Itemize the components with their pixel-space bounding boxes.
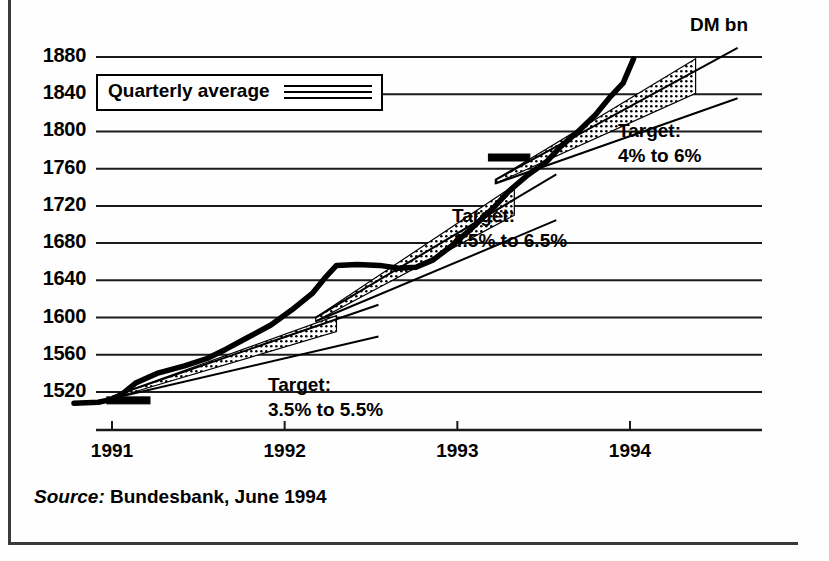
- y-tick-label: 1520: [8, 379, 86, 402]
- y-tick-label: 1680: [8, 230, 86, 253]
- source-prefix: Source:: [34, 486, 105, 507]
- y-tick-label: 1800: [8, 118, 86, 141]
- xticks-group: [112, 421, 630, 430]
- x-tick-label: 1993: [412, 440, 502, 462]
- y-tick-label: 1840: [8, 81, 86, 104]
- source-note: Source: Bundesbank, June 1994: [34, 486, 327, 508]
- target-label-line2: 4% to 6%: [618, 143, 701, 168]
- base-marker-1993: [488, 154, 529, 161]
- y-tick-label: 1600: [8, 305, 86, 328]
- y-tick-label: 1760: [8, 156, 86, 179]
- y-tick-label: 1640: [8, 267, 86, 290]
- legend-box: Quarterly average: [96, 74, 383, 111]
- y-axis-unit-label: DM bn: [690, 14, 748, 36]
- chart-figure: 1520156016001640168017201760180018401880…: [0, 0, 829, 561]
- target-label-line1: Target:: [268, 372, 383, 397]
- y-tick-label: 1560: [8, 342, 86, 365]
- target-annotation-1993: Target: 4% to 6%: [618, 118, 701, 168]
- target-annotation-1992: Target: 4.5% to 6.5%: [452, 203, 567, 253]
- x-tick-label: 1994: [585, 440, 675, 462]
- y-tick-label: 1720: [8, 193, 86, 216]
- y-tick-label: 1880: [8, 44, 86, 67]
- x-tick-label: 1991: [67, 440, 157, 462]
- target-annotation-1991: Target: 3.5% to 5.5%: [268, 372, 383, 422]
- base-markers-group: [107, 154, 530, 404]
- x-tick-label: 1992: [240, 440, 330, 462]
- target-label-line2: 3.5% to 5.5%: [268, 397, 383, 422]
- target-label-line2: 4.5% to 6.5%: [452, 228, 567, 253]
- target-label-line1: Target:: [452, 203, 567, 228]
- source-text: Bundesbank, June 1994: [110, 486, 326, 507]
- triple-line-icon: [284, 83, 374, 103]
- target-label-line1: Target:: [618, 118, 701, 143]
- legend-label: Quarterly average: [108, 80, 270, 102]
